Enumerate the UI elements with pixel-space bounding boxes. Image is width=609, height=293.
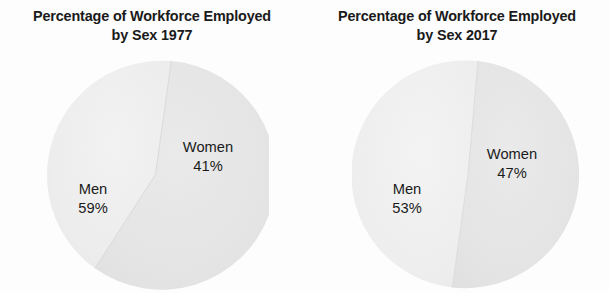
pie-1977-label-women: Women 41% <box>168 138 248 176</box>
pie-1977-label-women-name: Women <box>168 138 248 157</box>
pie-1977-label-men-value: 59% <box>62 199 124 218</box>
pie-2017-label-women: Women 47% <box>472 145 552 183</box>
chart-title-2017-line-1: Percentage of Workforce Employed <box>305 7 609 26</box>
pie-2017-label-men: Men 53% <box>376 180 438 218</box>
chart-title-2017-line-2: by Sex 2017 <box>305 26 609 45</box>
pie-2017-label-women-name: Women <box>472 145 552 164</box>
pie-1977-label-men: Men 59% <box>62 180 124 218</box>
pie-1977-label-men-name: Men <box>62 180 124 199</box>
chart-title-1977-line-2: by Sex 1977 <box>0 26 304 45</box>
pie-2017-label-women-value: 47% <box>472 164 552 183</box>
figure-root: Percentage of Workforce Employed by Sex … <box>0 0 609 293</box>
chart-panel-2017: Percentage of Workforce Employed by Sex … <box>305 0 609 293</box>
chart-title-2017: Percentage of Workforce Employed by Sex … <box>305 7 609 44</box>
pie-1977-label-women-value: 41% <box>168 157 248 176</box>
chart-title-1977: Percentage of Workforce Employed by Sex … <box>0 7 304 44</box>
chart-title-1977-line-1: Percentage of Workforce Employed <box>0 7 304 26</box>
chart-panel-1977: Percentage of Workforce Employed by Sex … <box>0 0 304 293</box>
pie-2017-label-men-name: Men <box>376 180 438 199</box>
pie-2017-label-men-value: 53% <box>376 199 438 218</box>
